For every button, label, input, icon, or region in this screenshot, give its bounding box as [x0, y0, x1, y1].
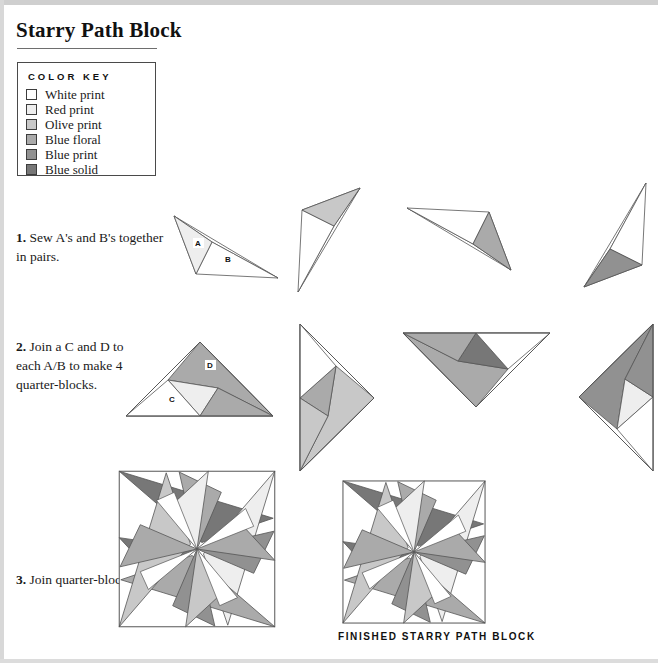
figure-step1-pair-1: AB	[166, 212, 281, 282]
title-underline	[17, 48, 157, 49]
color-key-label: Red print	[45, 102, 94, 117]
figure-step2-quarter-4	[575, 320, 657, 475]
swatch-red-print	[26, 104, 37, 115]
color-key-label: Blue solid	[45, 162, 98, 177]
piece-label: A	[195, 239, 201, 248]
scan-edge-bottom	[0, 659, 658, 663]
color-key-label: Blue print	[45, 147, 97, 162]
color-key-list: White print Red print Olive print Blue f…	[26, 87, 105, 177]
step-2-caption: 2. Join a C and D to each A/B to make 4 …	[16, 337, 126, 394]
figure-finished-block	[340, 478, 488, 626]
step-3-number: 3.	[16, 572, 26, 587]
color-key-item-blue-print: Blue print	[26, 147, 105, 162]
figure-step1-pair-4	[580, 180, 650, 295]
figure-step1-pair-3	[404, 204, 519, 274]
step-1-number: 1.	[16, 230, 26, 245]
figure-step2-quarter-1: CD	[122, 338, 277, 420]
figure-step1-pair-2	[294, 180, 364, 295]
piece-label: C	[169, 395, 175, 404]
scan-edge-left	[0, 0, 4, 663]
page-title: Starry Path Block	[16, 18, 182, 43]
scan-edge-top	[0, 0, 658, 5]
swatch-blue-solid	[26, 164, 37, 175]
step-1-text: Sew A's and B's together in pairs.	[16, 230, 163, 264]
color-key-label: Blue floral	[45, 132, 101, 147]
finished-block-caption: FINISHED STARRY PATH BLOCK	[338, 630, 548, 643]
color-key-item-olive-print: Olive print	[26, 117, 105, 132]
swatch-olive-print	[26, 119, 37, 130]
color-key-item-red-print: Red print	[26, 102, 105, 117]
color-key-label: White print	[45, 87, 105, 102]
color-key-label: Olive print	[45, 117, 102, 132]
swatch-white-print	[26, 89, 37, 100]
swatch-blue-floral	[26, 134, 37, 145]
piece-label: D	[207, 361, 213, 370]
step-2-text: Join a C and D to each A/B to make 4 qua…	[16, 339, 124, 392]
color-key-item-blue-solid: Blue solid	[26, 162, 105, 177]
piece-label: B	[225, 255, 231, 264]
step-2-number: 2.	[16, 339, 26, 354]
figure-step2-quarter-2	[296, 320, 378, 475]
color-key-panel: COLOR KEY White print Red print Olive pr…	[17, 62, 156, 176]
figure-step2-quarter-3	[399, 329, 554, 411]
step-1-caption: 1. Sew A's and B's together in pairs.	[16, 228, 166, 266]
color-key-item-blue-floral: Blue floral	[26, 132, 105, 147]
page-canvas: Starry Path Block COLOR KEY White print …	[0, 0, 658, 663]
figure-step3-assembled-block	[116, 468, 278, 630]
swatch-blue-print	[26, 149, 37, 160]
color-key-item-white-print: White print	[26, 87, 105, 102]
color-key-heading: COLOR KEY	[28, 71, 111, 82]
